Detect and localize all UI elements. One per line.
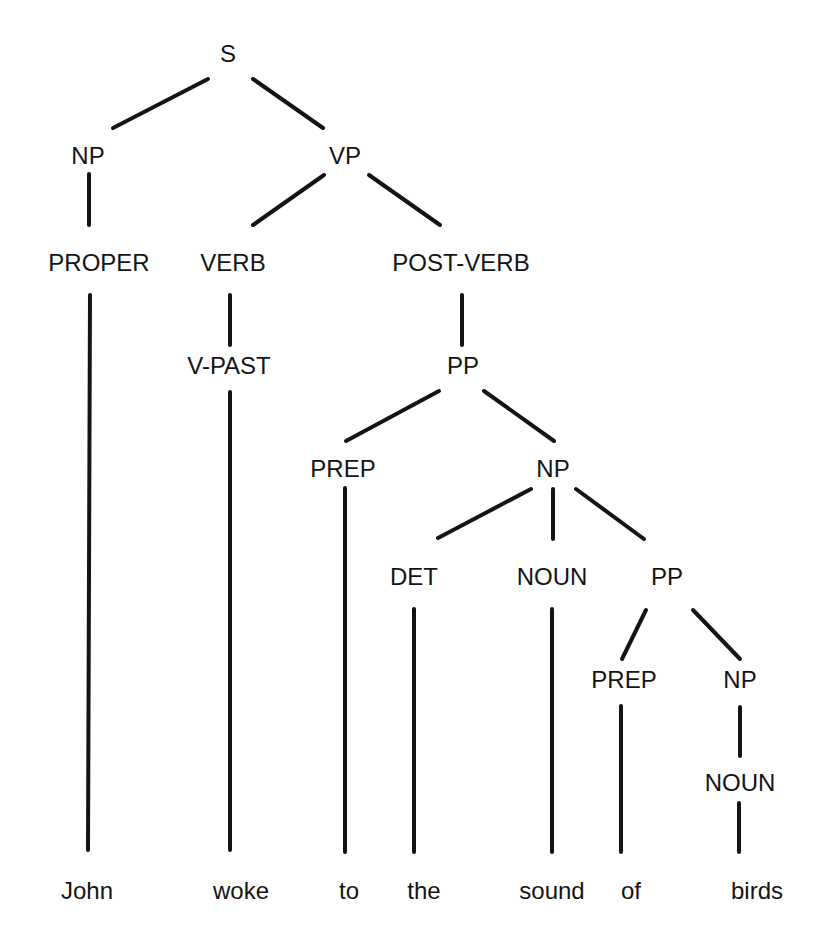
node-verb: VERB: [200, 249, 265, 276]
node-noun: NOUN: [517, 563, 588, 590]
node-pp: PP: [447, 352, 479, 379]
node-pp-inner: PP: [651, 563, 683, 590]
node-prep-inner: PREP: [591, 666, 656, 693]
node-s: S: [220, 40, 236, 67]
parse-tree-diagram: S NP VP PROPER VERB POST-VERB V-PAST PP …: [0, 0, 822, 952]
word-woke: woke: [212, 877, 269, 904]
edge-proper-john: [88, 295, 90, 850]
node-proper: PROPER: [48, 249, 149, 276]
word-john: John: [61, 877, 113, 904]
node-np-object: NP: [536, 455, 569, 482]
word-birds: birds: [731, 877, 783, 904]
node-noun-inner: NOUN: [705, 769, 776, 796]
node-prep: PREP: [310, 455, 375, 482]
node-np-inner: NP: [723, 666, 756, 693]
node-post-verb: POST-VERB: [392, 249, 529, 276]
background: [0, 0, 822, 952]
node-vp: VP: [329, 142, 361, 169]
node-det: DET: [390, 563, 438, 590]
node-v-past: V-PAST: [187, 352, 271, 379]
word-to: to: [339, 877, 359, 904]
word-of: of: [621, 877, 641, 904]
word-the: the: [407, 877, 440, 904]
node-np-subject: NP: [71, 142, 104, 169]
word-sound: sound: [519, 877, 584, 904]
